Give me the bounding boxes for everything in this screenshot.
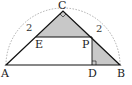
label-p: P xyxy=(82,38,90,51)
shaded-triangle-cep xyxy=(36,11,92,37)
label-d: D xyxy=(88,67,97,80)
label-side-bc: 2 xyxy=(96,23,102,34)
label-b: B xyxy=(117,67,125,80)
label-a: A xyxy=(0,67,10,80)
label-side-ac: 2 xyxy=(26,22,32,33)
geometry-diagram: C A B D E P 2 2 xyxy=(0,0,132,85)
label-e: E xyxy=(35,38,43,51)
label-c: C xyxy=(58,0,66,12)
